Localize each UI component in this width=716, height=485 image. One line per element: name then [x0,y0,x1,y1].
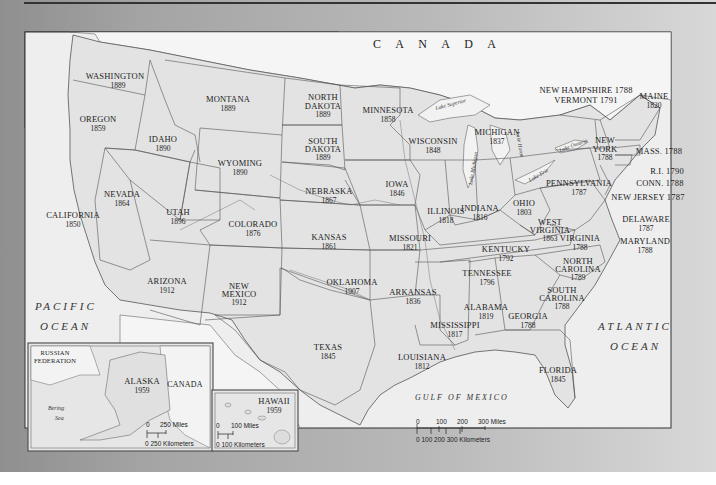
state-wisconsin: WISCONSIN [408,136,457,146]
state-mississippi: MISSISSIPPI [430,320,479,330]
state-vermont: VERMONT 1791 [554,95,617,105]
year-idaho: 1890 [156,144,171,153]
year-oregon: 1859 [91,124,106,133]
year-nevada: 1864 [115,199,130,208]
year-arkansas: 1836 [406,297,421,306]
page: C A N A D A RUSSIAN FEDERATION CANADA PA… [0,0,716,485]
state-louisiana: LOUISIANA [398,352,447,362]
label-pacific-1: PACIFIC [34,300,97,312]
state-nevada: NEVADA [104,189,141,199]
state-ohio: OHIO [513,198,535,208]
state-pennsylvania: PENNSYLVANIA [546,178,613,188]
label-russia-1: RUSSIAN [40,349,69,356]
state-massachusetts: MASS. 1788 [636,146,682,156]
year-west-virginia: 1863 [543,234,558,243]
year-hawaii: 1959 [267,406,282,415]
state-connecticut: CONN. 1788 [636,178,683,188]
year-illinois: 1818 [439,216,454,225]
state-alabama: ALABAMA [464,302,509,312]
year-ohio: 1803 [517,208,532,217]
state-maine: MAINE [640,91,669,101]
state-illinois: ILLINOIS [427,206,465,216]
year-wyoming: 1890 [233,168,248,177]
year-maryland: 1788 [638,246,653,255]
state-california: CALIFORNIA [46,210,100,220]
state-oklahoma: OKLAHOMA [326,277,378,287]
state-utah: UTAH [166,207,190,217]
year-indiana: 1816 [473,213,488,222]
scale-hawaii-0: 0 [216,422,220,429]
state-washington: WASHINGTON [86,71,145,81]
scale-main-0: 0 [416,418,420,425]
state-arizona: ARIZONA [147,276,187,286]
state-colorado: COLORADO [229,219,278,229]
state-idaho: IDAHO [149,134,177,144]
state-nebraska: NEBRASKA [305,186,353,196]
year-virginia: 1788 [573,243,588,252]
scale-hawaii-km: 0 100 Kilometers [216,441,266,448]
year-michigan: 1837 [490,137,505,146]
year-colorado: 1876 [246,229,261,238]
year-california: 1850 [66,220,81,229]
state-wyoming: WYOMING [218,158,262,168]
year-alabama: 1819 [479,312,494,321]
year-louisiana: 1812 [415,362,430,371]
year-south-dakota: 1889 [316,153,331,162]
state-minnesota: MINNESOTA [362,105,414,115]
scale-main-km: 0 100 200 300 Kilometers [416,436,491,443]
year-missouri: 1821 [403,243,418,252]
label-canada-inset: CANADA [167,380,202,389]
year-montana: 1889 [221,104,236,113]
year-oklahoma: 1907 [345,287,360,296]
year-arizona: 1912 [160,286,175,295]
year-alaska: 1959 [135,386,150,395]
year-nebraska: 1867 [322,196,337,205]
scale-alaska-0: 0 [146,421,150,428]
state-kentucky: KENTUCKY [482,244,530,254]
state-alaska: ALASKA [124,376,160,386]
year-maine: 1820 [647,101,662,110]
year-kansas: 1861 [322,242,337,251]
state-michigan: MICHIGAN [474,127,519,137]
year-mississippi: 1817 [448,330,463,339]
label-bering-2: Sea [55,415,64,421]
state-montana: MONTANA [206,94,251,104]
scale-alaska-km: 0 250 Kilometers [145,440,195,447]
label-bering-1: Bering [48,405,64,411]
label-atlantic-1: ATLANTIC [597,320,672,332]
state-hawaii: HAWAII [258,396,290,406]
year-wisconsin: 1848 [426,146,441,155]
year-georgia: 1788 [521,321,536,330]
state-rhode-island: R.I. 1790 [650,166,684,176]
state-new-jersey: NEW JERSEY 1787 [611,192,684,202]
label-atlantic-2: OCEAN [610,340,661,352]
year-new-york: 1788 [598,153,613,162]
year-delaware: 1787 [639,224,654,233]
state-kansas: KANSAS [311,232,346,242]
year-pennsylvania: 1787 [572,188,587,197]
year-utah: 1896 [171,217,186,226]
state-iowa: IOWA [386,179,410,189]
state-texas: TEXAS [314,342,342,352]
year-north-dakota: 1889 [316,110,331,119]
state-missouri: MISSOURI [389,233,431,243]
us-statehood-map: C A N A D A RUSSIAN FEDERATION CANADA PA… [0,0,716,485]
scale-main-200: 200 [457,418,468,425]
state-new-hampshire: NEW HAMPSHIRE 1788 [539,85,632,95]
year-south-carolina: 1788 [555,302,570,311]
scale-main-100: 100 [436,418,447,425]
year-kentucky: 1792 [499,254,514,263]
year-new-mexico: 1912 [232,298,247,307]
state-delaware: DELAWARE [622,214,670,224]
scale-hawaii-miles: 100 Miles [231,422,260,429]
state-florida: FLORIDA [539,365,578,375]
scale-main-300: 300 Miles [478,418,507,425]
year-iowa: 1846 [390,189,405,198]
scale-alaska-miles: 250 Miles [160,421,189,428]
state-georgia: GEORGIA [508,311,548,321]
year-washington: 1889 [111,81,126,90]
state-indiana: INDIANA [461,203,499,213]
label-gulf: GULF OF MEXICO [415,393,509,402]
state-arkansas: ARKANSAS [389,287,436,297]
year-minnesota: 1858 [381,115,396,124]
